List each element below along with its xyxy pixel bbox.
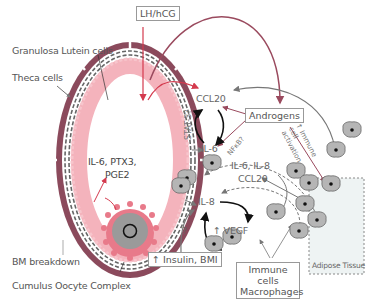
immune-cells-box: Immune cells Macrophages xyxy=(236,262,300,299)
ccl20-b-label: CCL20 xyxy=(238,173,268,184)
lh-hcg-box: LH/hCG xyxy=(136,6,180,21)
insulin-bmi-box: ↑ Insulin, BMI xyxy=(148,252,222,267)
granulosa-label: Granulosa Lutein cells xyxy=(12,45,113,56)
immune-cells-text: Immune cells xyxy=(240,264,296,286)
bm-breakdown-label: BM breakdown xyxy=(12,256,80,267)
stat3-label: STAT-3? xyxy=(184,109,193,140)
oocyte xyxy=(112,213,148,249)
androgens-box: Androgens xyxy=(245,108,304,123)
il6-il8-label: IL-6, IL-8 xyxy=(231,160,270,171)
theca-label: Theca cells xyxy=(12,72,63,83)
il6-label: IL-6 xyxy=(201,143,218,154)
question-label: ? xyxy=(182,225,187,236)
coc-label: Cumulus Oocyte Complex xyxy=(12,280,131,291)
il8-label: IL-8 xyxy=(198,196,215,207)
pge2-label: PGE2 xyxy=(105,169,129,180)
vegf-label: ↑ VEGF xyxy=(213,225,248,236)
macrophages-text: Macrophages xyxy=(240,286,296,297)
il6-ptx3-label: IL-6, PTX3, xyxy=(88,156,136,167)
ccl20-label: CCL20 xyxy=(196,93,226,104)
adipose-label: Adipose Tissue xyxy=(312,261,365,270)
